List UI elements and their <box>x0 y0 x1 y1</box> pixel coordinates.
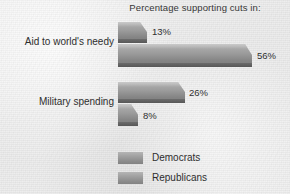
bar-aid-republicans <box>118 44 252 67</box>
bar-value-aid-republicans: 56% <box>257 50 276 62</box>
bar-value-aid-democrats: 13% <box>152 26 171 38</box>
legend-label-democrats: Democrats <box>152 152 200 164</box>
bar-fill <box>118 82 185 103</box>
bar-fill <box>118 22 147 43</box>
bar-aid-democrats <box>118 22 147 43</box>
legend-item-democrats: Democrats <box>118 148 207 168</box>
legend-label-republicans: Republicans <box>152 172 207 184</box>
bar-military-republicans <box>118 104 138 126</box>
legend-item-republicans: Republicans <box>118 168 207 188</box>
bar-fill <box>118 44 252 67</box>
category-label-aid-to-worlds-needy: Aid to world's needy <box>25 36 114 48</box>
bar-military-democrats <box>118 82 185 103</box>
chart-legend: Democrats Republicans <box>118 148 207 188</box>
bar-value-military-democrats: 26% <box>189 87 208 99</box>
category-label-military-spending: Military spending <box>39 96 114 108</box>
bar-fill <box>118 104 138 126</box>
legend-swatch-republicans <box>118 172 143 184</box>
bar-chart: Percentage supporting cuts in: Aid to wo… <box>0 0 290 194</box>
bar-value-military-republicans: 8% <box>143 110 157 122</box>
legend-swatch-democrats <box>118 152 143 164</box>
chart-title: Percentage supporting cuts in: <box>105 2 285 14</box>
